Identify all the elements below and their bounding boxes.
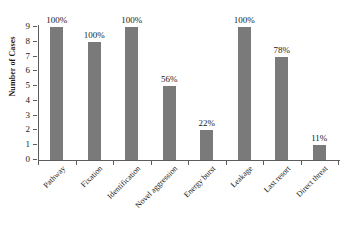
x-axis-line <box>38 160 340 161</box>
y-tick-label: 2 <box>0 124 30 134</box>
bar <box>125 27 138 160</box>
y-tick-mark <box>33 56 37 57</box>
y-tick-label: 8 <box>0 36 30 46</box>
bar-value-label: 11% <box>298 133 340 143</box>
y-tick-mark <box>33 26 37 27</box>
y-tick-mark <box>33 129 37 130</box>
bar-value-label: 78% <box>261 45 303 55</box>
bar <box>50 27 63 160</box>
y-tick-label: 3 <box>0 110 30 120</box>
y-tick-mark <box>33 41 37 42</box>
bar-chart: Number of Cases 0123456789 PathwayFixati… <box>0 0 351 231</box>
x-tick-mark <box>263 161 264 165</box>
y-tick-mark <box>33 85 37 86</box>
y-tick-mark <box>33 100 37 101</box>
x-tick-mark <box>113 161 114 165</box>
y-tick-mark <box>33 159 37 160</box>
x-tick-mark <box>38 161 39 165</box>
bar-value-label: 56% <box>148 74 190 84</box>
bar-value-label: 22% <box>186 118 228 128</box>
x-tick-mark <box>188 161 189 165</box>
x-tick-mark <box>338 161 339 165</box>
y-tick-label: 7 <box>0 51 30 61</box>
x-axis-label: Pathway <box>41 164 67 190</box>
bar <box>313 145 326 160</box>
y-tick-mark <box>33 144 37 145</box>
x-axis-label: Direct threat <box>295 164 330 199</box>
x-axis-label: Fixation <box>79 164 104 189</box>
bar-value-label: 100% <box>36 15 78 25</box>
y-tick-mark <box>33 115 37 116</box>
bar <box>275 57 288 160</box>
bar <box>163 86 176 160</box>
bar <box>238 27 251 160</box>
x-axis-label: Identification <box>105 164 142 201</box>
x-axis-label: Last resort <box>262 164 292 194</box>
x-tick-mark <box>301 161 302 165</box>
x-tick-mark <box>151 161 152 165</box>
bar <box>88 42 101 160</box>
y-tick-mark <box>33 70 37 71</box>
y-tick-label: 1 <box>0 139 30 149</box>
y-tick-label: 0 <box>0 154 30 164</box>
bar-value-label: 100% <box>111 15 153 25</box>
bar-value-label: 100% <box>223 15 265 25</box>
x-tick-mark <box>226 161 227 165</box>
x-axis-label: Energy burst <box>182 164 217 199</box>
bar <box>200 130 213 160</box>
x-tick-mark <box>76 161 77 165</box>
bar-value-label: 100% <box>73 30 115 40</box>
y-tick-label: 6 <box>0 65 30 75</box>
y-tick-label: 5 <box>0 80 30 90</box>
y-tick-label: 4 <box>0 95 30 105</box>
y-tick-label: 9 <box>0 21 30 31</box>
x-axis-label: Leakage <box>229 164 255 190</box>
